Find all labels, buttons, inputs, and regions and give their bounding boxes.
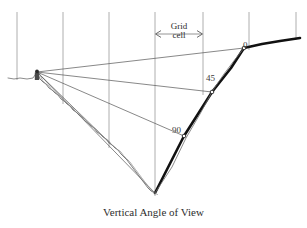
angle-label-45: 45 xyxy=(206,74,215,83)
terrain-profile-left-plateau xyxy=(8,72,37,79)
sight-line-3 xyxy=(37,72,155,193)
angle-marker-45 xyxy=(210,90,214,94)
terrain-profile-right-slope xyxy=(155,48,244,193)
observer-body xyxy=(35,73,39,81)
vertical-angle-of-view-figure: Grid cell 0 45 90 Vertical Angle of View xyxy=(0,0,307,228)
grid-cell-label: Grid cell xyxy=(161,22,197,41)
grid-cell-label-line2: cell xyxy=(173,30,186,40)
terrain-cross-section-plot xyxy=(0,0,307,228)
angle-label-90: 90 xyxy=(172,126,181,135)
terrain-profile-right-plateau xyxy=(244,38,300,48)
angle-marker-90 xyxy=(182,134,186,138)
angle-label-0: 0 xyxy=(243,41,248,50)
figure-caption: Vertical Angle of View xyxy=(0,206,307,218)
observer-head xyxy=(35,70,39,74)
observer-figure xyxy=(35,70,39,81)
sight-line-90 xyxy=(37,72,184,136)
sight-line-0 xyxy=(37,48,244,72)
